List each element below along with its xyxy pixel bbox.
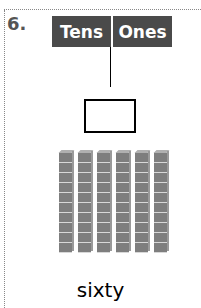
unit-cube: [78, 223, 91, 233]
unit-cube: [78, 233, 91, 243]
unit-cube: [116, 213, 129, 223]
unit-cube: [116, 203, 129, 213]
place-value-divider-line: [110, 47, 111, 87]
tens-rod: [116, 153, 129, 253]
ones-header: Ones: [113, 16, 172, 47]
unit-cube: [59, 243, 72, 253]
unit-cube: [135, 223, 148, 233]
tens-rod: [154, 153, 167, 253]
unit-cube: [116, 223, 129, 233]
unit-cube: [97, 213, 110, 223]
unit-cube: [97, 243, 110, 253]
place-value-header: Tens Ones: [52, 16, 172, 47]
unit-cube: [116, 153, 129, 163]
unit-cube: [154, 203, 167, 213]
unit-cube: [135, 203, 148, 213]
unit-cube: [59, 173, 72, 183]
tens-rod: [97, 153, 110, 253]
unit-cube: [135, 173, 148, 183]
unit-cube: [135, 183, 148, 193]
unit-cube: [97, 163, 110, 173]
unit-cube: [135, 193, 148, 203]
unit-cube: [59, 183, 72, 193]
unit-cube: [78, 203, 91, 213]
unit-cube: [154, 173, 167, 183]
unit-cube: [116, 243, 129, 253]
unit-cube: [97, 173, 110, 183]
unit-cube: [97, 193, 110, 203]
unit-cube: [59, 233, 72, 243]
unit-cube: [154, 183, 167, 193]
unit-cube: [78, 153, 91, 163]
unit-cube: [78, 163, 91, 173]
unit-cube: [78, 213, 91, 223]
unit-cube: [116, 193, 129, 203]
unit-cube: [154, 163, 167, 173]
unit-cube: [135, 163, 148, 173]
unit-cube: [97, 183, 110, 193]
unit-cube: [135, 213, 148, 223]
unit-cube: [59, 163, 72, 173]
unit-cube: [59, 213, 72, 223]
unit-cube: [154, 213, 167, 223]
unit-cube: [154, 243, 167, 253]
left-dotted-border: [4, 10, 5, 308]
unit-cube: [97, 233, 110, 243]
unit-cube: [59, 223, 72, 233]
unit-cube: [116, 173, 129, 183]
unit-cube: [78, 243, 91, 253]
unit-cube: [154, 233, 167, 243]
unit-cube: [78, 173, 91, 183]
unit-cube: [97, 203, 110, 213]
problem-number: 6.: [7, 13, 26, 34]
unit-cube: [154, 223, 167, 233]
unit-cube: [135, 153, 148, 163]
unit-cube: [78, 193, 91, 203]
unit-cube: [116, 233, 129, 243]
unit-cube: [97, 223, 110, 233]
tens-rod: [135, 153, 148, 253]
unit-cube: [59, 193, 72, 203]
answer-box[interactable]: [84, 99, 136, 133]
unit-cube: [135, 243, 148, 253]
tens-rod: [78, 153, 91, 253]
tens-header: Tens: [52, 16, 111, 47]
unit-cube: [116, 183, 129, 193]
unit-cube: [135, 233, 148, 243]
unit-cube: [78, 183, 91, 193]
base-ten-blocks: [59, 153, 167, 253]
unit-cube: [154, 193, 167, 203]
unit-cube: [59, 153, 72, 163]
unit-cube: [154, 153, 167, 163]
top-dotted-border: [4, 9, 201, 10]
unit-cube: [97, 153, 110, 163]
unit-cube: [59, 203, 72, 213]
number-word: sixty: [0, 278, 201, 302]
unit-cube: [116, 163, 129, 173]
tens-rod: [59, 153, 72, 253]
